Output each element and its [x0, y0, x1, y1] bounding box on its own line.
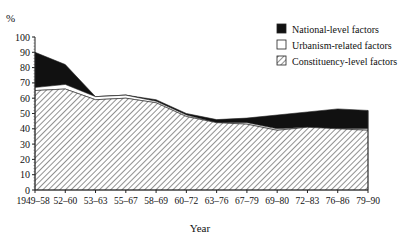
x-tick-label: 52–60	[53, 196, 77, 206]
y-axis-label: %	[6, 12, 15, 24]
x-tick-label: 69–80	[265, 196, 289, 206]
x-tick-label: 55–67	[114, 196, 138, 206]
stacked-area-chart: 01020304050607080901001949–5852–6053–635…	[0, 0, 420, 240]
x-tick-label: 79–90	[356, 196, 380, 206]
x-tick-label: 72–83	[296, 196, 320, 206]
y-tick-label: 90	[20, 47, 30, 58]
legend-label: Constituency-level factors	[292, 56, 397, 67]
legend-swatch	[277, 56, 286, 65]
x-tick-label: 67–79	[235, 196, 259, 206]
x-tick-label: 58–69	[144, 196, 168, 206]
legend-label: National-level factors	[292, 24, 379, 35]
x-tick-label: 63–76	[205, 196, 229, 206]
x-axis-label: Year	[190, 222, 211, 234]
plot-areas	[35, 52, 368, 190]
y-tick-label: 100	[15, 32, 30, 43]
x-tick-label: 76–86	[326, 196, 350, 206]
legend-swatch	[277, 24, 286, 33]
y-tick-label: 30	[20, 139, 30, 150]
x-tick-label: 60–72	[174, 196, 198, 206]
x-tick-label: 53–63	[84, 196, 108, 206]
y-tick-label: 10	[20, 169, 30, 180]
legend: National-level factorsUrbanism-related f…	[277, 24, 397, 67]
y-tick-label: 0	[25, 185, 30, 196]
y-tick-label: 40	[20, 123, 30, 134]
x-tick-label: 1949–58	[16, 196, 50, 206]
y-tick-label: 20	[20, 154, 30, 165]
legend-swatch	[277, 40, 286, 49]
chart-canvas: 01020304050607080901001949–5852–6053–635…	[0, 0, 420, 240]
y-tick-label: 60	[20, 93, 30, 104]
y-tick-label: 50	[20, 108, 30, 119]
area-constituency-level-factors	[35, 89, 368, 190]
legend-label: Urbanism-related factors	[292, 40, 392, 51]
y-tick-label: 80	[20, 62, 30, 73]
y-tick-label: 70	[20, 77, 30, 88]
